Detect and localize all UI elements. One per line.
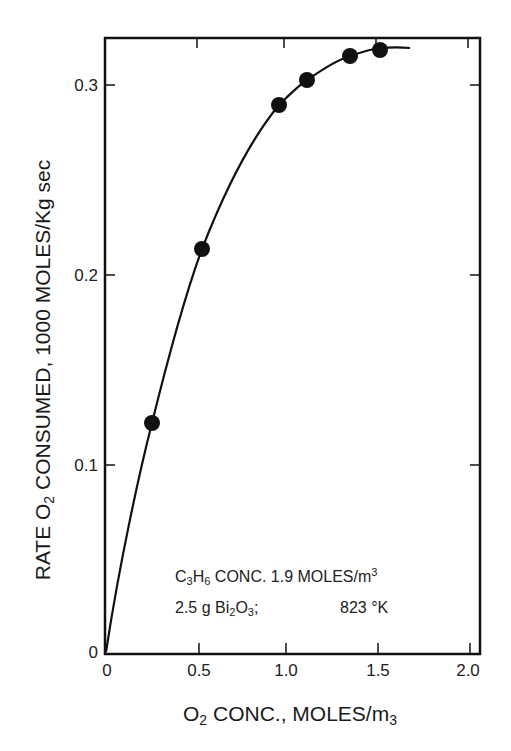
- x-ticks-top: [197, 38, 468, 48]
- x-tick-label: 0.5: [187, 661, 211, 680]
- x-tick-label: 2.0: [456, 661, 480, 680]
- x-tick-label: 1.5: [366, 661, 390, 680]
- x-axis-title: O2 CONC., MOLES/m3: [183, 702, 397, 728]
- data-point: [194, 241, 210, 257]
- y-ticks-left: [105, 85, 115, 465]
- annotation-catalyst: 2.5 g Bi2O3;: [175, 599, 258, 618]
- y-ticks-right: [470, 85, 480, 465]
- y-tick-label: 0: [89, 643, 98, 662]
- data-point: [144, 415, 160, 431]
- chart: 0 0.5 1.0 1.5 2.0 0 0.1 0.2 0.3 C3H6 CON…: [0, 0, 511, 751]
- data-point: [271, 97, 287, 113]
- y-tick-label: 0.2: [74, 266, 98, 285]
- plot-frame: [105, 38, 480, 654]
- data-point: [342, 48, 358, 64]
- y-axis-title: RATE O2 CONSUMED, 1000 MOLES/Kg sec: [31, 160, 57, 581]
- x-ticks-bottom: [199, 643, 470, 654]
- fitted-curve: [106, 47, 410, 652]
- y-tick-label: 0.1: [74, 456, 98, 475]
- data-point: [299, 72, 315, 88]
- annotation-temperature: 823 °K: [340, 599, 389, 616]
- x-tick-label: 0: [102, 661, 111, 680]
- y-tick-label: 0.3: [74, 76, 98, 95]
- data-points: [144, 42, 388, 431]
- data-point: [372, 42, 388, 58]
- annotation-propylene: C3H6 CONC. 1.9 MOLES/m3: [175, 566, 377, 587]
- x-tick-label: 1.0: [274, 661, 298, 680]
